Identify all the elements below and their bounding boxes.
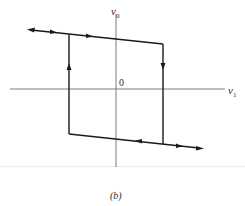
arrow-left-icon (27, 28, 35, 33)
origin-label: 0 (119, 78, 124, 88)
arrow-down-icon (161, 63, 166, 70)
arrow-up-icon (67, 63, 72, 70)
arrow-right-icon (196, 146, 204, 151)
hysteresis-diagram (0, 0, 245, 206)
x-axis-label-subscript: 1 (233, 91, 237, 99)
y-axis-label: v0 (111, 6, 119, 20)
figure-caption: (b) (110, 191, 122, 201)
x-axis-label: v1 (228, 85, 236, 99)
y-axis-label-subscript: 0 (116, 12, 120, 20)
